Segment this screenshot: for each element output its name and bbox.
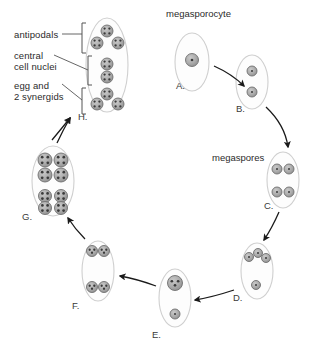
nucleolus-dot (41, 204, 44, 207)
nucleolus-dot (103, 32, 105, 34)
nucleus-body (112, 98, 124, 110)
nucleolus-dot (98, 100, 100, 102)
nucleus (272, 187, 282, 197)
nucleolus-dot (46, 204, 49, 207)
nucleolus-dot (93, 105, 95, 107)
nucleus-body (91, 98, 103, 110)
nucleolus-dot (62, 192, 65, 195)
nucleolus-dot (46, 209, 49, 212)
nucleus (247, 87, 257, 97)
nucleus-body (87, 246, 98, 257)
diagram-canvas: megasporocyte megaspores antipodals cent… (0, 0, 317, 356)
nucleus-body (38, 153, 52, 167)
nucleus (38, 153, 52, 167)
nucleolus-dot (98, 105, 100, 107)
nucleus (39, 190, 52, 203)
nucleus (247, 66, 257, 76)
nucleus-body (55, 202, 68, 215)
nucleolus-dot (98, 44, 100, 46)
nucleolus-dot (103, 95, 105, 97)
stage-cell-d (241, 243, 273, 299)
nucleolus-dot (46, 176, 49, 179)
nucleus (101, 25, 113, 37)
nucleolus-dot (46, 156, 49, 159)
nucleus (284, 187, 294, 197)
nucleolus-dot (93, 44, 95, 46)
nucleolus-dot (89, 285, 91, 287)
nucleolus-dot (62, 204, 65, 207)
arrow-d-to-e (195, 290, 234, 300)
nucleolus-dot (114, 105, 116, 107)
nucleolus-dot (41, 156, 44, 159)
nucleolus-dot (46, 197, 49, 200)
nucleus (54, 153, 68, 167)
stage-cell-g (32, 146, 74, 216)
stage-cell-h (86, 18, 128, 112)
nucleus (54, 168, 68, 182)
nucleus (170, 309, 180, 319)
stage-label-g: G. (22, 211, 32, 222)
nucleolus-dot (103, 60, 105, 62)
label-2-synergids: 2 synergids (14, 91, 64, 102)
nucleolus-dot (288, 191, 290, 193)
nucleolus-dot (93, 100, 95, 102)
nucleus (99, 282, 110, 293)
nucleolus-dot (257, 252, 259, 254)
nucleolus-dot (41, 171, 44, 174)
nucleus-body (39, 202, 52, 215)
arrow-f-to-g (68, 218, 85, 239)
nucleolus-dot (101, 285, 103, 287)
nucleus-body (91, 37, 103, 49)
nucleus-body (55, 190, 68, 203)
stage-label-a: A. (176, 80, 185, 91)
nucleolus-dot (174, 313, 176, 315)
nucleolus-dot (57, 209, 60, 212)
arrow-c-to-d (264, 212, 279, 240)
nucleolus-dot (93, 249, 95, 251)
nucleolus-dot (98, 39, 100, 41)
central-leader (54, 55, 88, 70)
nucleus (38, 168, 52, 182)
nucleolus-dot (62, 209, 65, 212)
label-central: central (14, 50, 43, 61)
nucleolus-dot (41, 192, 44, 195)
nucleolus-dot (114, 39, 116, 41)
label-cell-nuclei: cell nuclei (14, 61, 57, 72)
nucleolus-dot (276, 168, 278, 170)
nucleus (112, 98, 124, 110)
nucleolus-dot (57, 197, 60, 200)
nucleolus-dot (248, 256, 250, 258)
nucleolus-dot (119, 39, 121, 41)
nucleus (99, 246, 110, 257)
label-megasporocyte: megasporocyte (166, 8, 231, 19)
antipodals-bracket (82, 23, 86, 53)
arrow-g-to-h (57, 118, 70, 143)
arrow-b-to-c (266, 107, 288, 147)
nucleus (168, 276, 183, 291)
nucleolus-dot (103, 78, 105, 80)
nucleolus-dot (108, 60, 110, 62)
nucleolus-dot (251, 91, 253, 93)
cell-membrane (236, 55, 268, 109)
nucleolus-dot (108, 78, 110, 80)
nucleolus-dot (276, 191, 278, 193)
stage-label-e: E. (152, 329, 161, 340)
nucleus (284, 164, 294, 174)
nucleolus-dot (105, 285, 107, 287)
nucleolus-dot (108, 73, 110, 75)
nucleolus-dot (57, 204, 60, 207)
nucleolus-dot (103, 65, 105, 67)
nucleolus-dot (174, 284, 177, 287)
nucleolus-dot (57, 171, 60, 174)
nucleus (55, 202, 68, 215)
nucleolus-dot (114, 44, 116, 46)
nucleus-body (54, 153, 68, 167)
nucleolus-dot (46, 161, 49, 164)
label-antipodals: antipodals (14, 29, 58, 40)
nucleolus-dot (62, 161, 65, 164)
nucleus (186, 54, 199, 67)
nucleolus-dot (57, 161, 60, 164)
nucleus-body (101, 71, 113, 83)
nucleus (101, 58, 113, 70)
megagametogenesis-diagram (0, 0, 317, 356)
